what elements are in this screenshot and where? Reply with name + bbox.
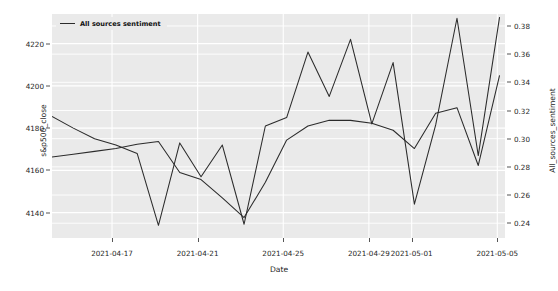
y-axis-right-tick-label: 0.36 [514, 50, 530, 59]
x-axis-tick-label: 2021-04-17 [91, 249, 133, 258]
y-axis-right-tick-mark [507, 166, 511, 167]
series-line [52, 17, 500, 225]
y-axis-right-tick-mark [507, 25, 511, 26]
x-axis-tick-mark [112, 238, 113, 242]
x-axis-tick-label: 2021-04-29 [348, 249, 390, 258]
y-axis-right-tick-label: 0.32 [514, 106, 530, 115]
x-axis-tick-mark [283, 238, 284, 242]
x-axis-tick-label: 2021-04-21 [177, 249, 219, 258]
chart-figure: 41404160418042004220 0.240.260.280.300.3… [0, 0, 558, 291]
x-axis-tick-label: 2021-05-01 [391, 249, 433, 258]
y-axis-left-tick-label: 4140 [26, 208, 44, 217]
plot-area [52, 14, 505, 238]
legend-line-swatch-icon [60, 23, 75, 24]
y-axis-right-tick-mark [507, 82, 511, 83]
x-axis-tick-mark [198, 238, 199, 242]
x-axis-tick-label: 2021-04-25 [262, 249, 304, 258]
x-axis-tick-mark [369, 238, 370, 242]
y-axis-right-tick-label: 0.24 [514, 219, 530, 228]
y-axis-right-tick-label: 0.38 [514, 21, 530, 30]
series-lines [52, 14, 505, 238]
y-axis-right-tick-mark [507, 54, 511, 55]
y-axis-right-tick-mark [507, 138, 511, 139]
x-axis-tick-label: 2021-05-05 [476, 249, 518, 258]
y-axis-left-tick-mark [46, 43, 50, 44]
chart-legend: All sources sentiment [56, 17, 167, 30]
y-axis-right-tick-mark [507, 195, 511, 196]
y-axis-left-tick-mark [46, 212, 50, 213]
x-axis-tick-mark [497, 238, 498, 242]
legend-label: All sources sentiment [80, 20, 161, 28]
y-axis-left-label: s&p500_close [39, 71, 48, 191]
y-axis-right-tick-mark [507, 110, 511, 111]
y-axis-right-tick-label: 0.26 [514, 191, 530, 200]
y-axis-right-tick-mark [507, 223, 511, 224]
x-axis-tick-mark [412, 238, 413, 242]
y-axis-left-tick-label: 4220 [26, 39, 44, 48]
y-axis-right-tick-label: 0.30 [514, 134, 530, 143]
x-axis-label: Date [0, 265, 558, 274]
y-axis-right-tick-label: 0.34 [514, 78, 530, 87]
y-axis-right-tick-label: 0.28 [514, 162, 530, 171]
y-axis-right-label: All_sources_sentiment [548, 51, 557, 211]
